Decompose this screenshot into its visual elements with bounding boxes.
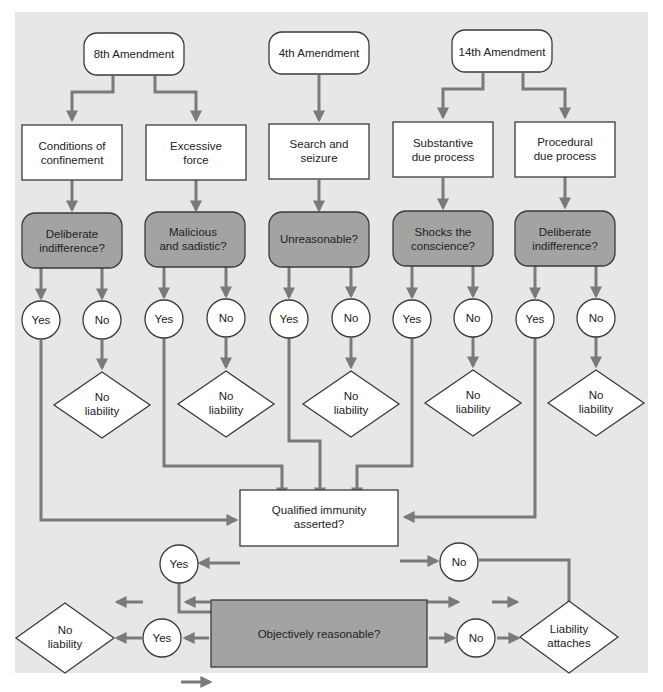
- or-answer-no-label: No: [469, 632, 484, 644]
- liability-attaches-line2: attaches: [547, 637, 591, 649]
- objectively-reasonable-node: Objectively reasonable?: [211, 600, 427, 667]
- no-liability-line2: liability: [48, 638, 83, 650]
- no-liability-line1: No: [58, 624, 73, 636]
- final-no-liability-diamond: No liability: [16, 603, 114, 673]
- or-answer-yes-label: Yes: [153, 632, 172, 644]
- or-answer-no: No: [457, 619, 495, 657]
- liability-attaches-line1: Liability: [550, 623, 589, 635]
- flowchart-bottom-row: Objectively reasonable? Yes No No liabil…: [0, 0, 663, 692]
- liability-attaches-diamond: Liability attaches: [520, 601, 618, 673]
- or-answer-yes: Yes: [143, 619, 181, 657]
- objectively-reasonable-label: Objectively reasonable?: [258, 628, 381, 640]
